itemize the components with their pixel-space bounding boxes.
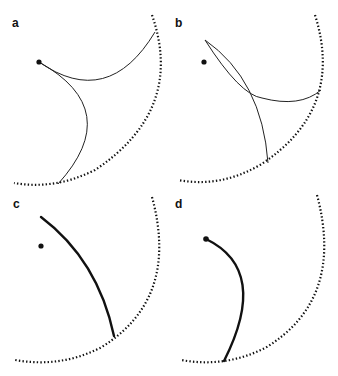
panel-label-d: d bbox=[175, 197, 182, 211]
panel-d: d bbox=[175, 195, 324, 362]
panel-b: b bbox=[175, 15, 323, 182]
panel-c: c bbox=[13, 197, 159, 362]
thick-curve bbox=[41, 217, 114, 336]
panel-label-c: c bbox=[13, 197, 20, 211]
source-point bbox=[36, 59, 41, 64]
curve-upper bbox=[205, 40, 321, 102]
boundary-arc bbox=[181, 195, 324, 362]
panel-label-b: b bbox=[175, 16, 182, 30]
curve-lower bbox=[205, 40, 268, 163]
boundary-arc bbox=[14, 15, 161, 185]
boundary-arc bbox=[15, 197, 159, 362]
thick-curve bbox=[206, 239, 243, 361]
boundary-arc bbox=[178, 15, 323, 182]
source-point bbox=[203, 236, 209, 242]
source-point bbox=[201, 59, 206, 64]
figure-canvas: a b c d bbox=[0, 0, 338, 376]
panel-label-a: a bbox=[12, 16, 19, 30]
panel-a: a bbox=[12, 15, 161, 185]
curve-lower bbox=[39, 62, 87, 184]
source-point bbox=[38, 243, 43, 248]
